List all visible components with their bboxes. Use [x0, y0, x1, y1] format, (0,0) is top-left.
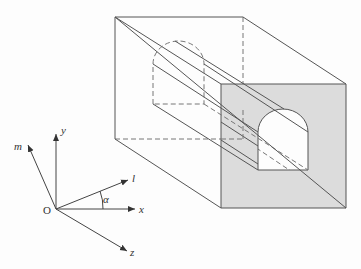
l-axis-label: l — [132, 172, 135, 184]
m-axis-label: m — [14, 140, 22, 152]
y-axis-label: y — [60, 124, 66, 136]
diagram-canvas: O y x z l m α — [0, 0, 361, 269]
m-axis — [28, 145, 56, 209]
back-arch-opening — [153, 41, 204, 104]
tunnel-block-diagram: O y x z l m α — [0, 0, 361, 269]
origin-label: O — [43, 204, 51, 216]
z-axis-label: z — [129, 246, 135, 258]
alpha-angle-label: α — [103, 193, 109, 205]
x-axis-label: x — [138, 203, 144, 215]
coordinate-axes — [28, 134, 135, 251]
z-axis — [56, 209, 127, 251]
l-axis — [56, 180, 128, 209]
front-face — [221, 84, 346, 208]
